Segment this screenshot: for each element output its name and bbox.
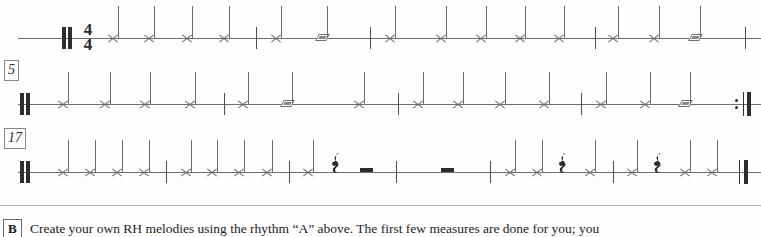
notehead-x xyxy=(218,33,229,44)
barline xyxy=(595,27,596,49)
final-thin-barline xyxy=(739,160,740,184)
notehead-x xyxy=(504,167,515,178)
notehead-x xyxy=(706,167,717,178)
notehead-x xyxy=(206,167,217,178)
notehead-x xyxy=(84,167,95,178)
barline xyxy=(613,161,614,183)
note-stem xyxy=(395,6,396,38)
notehead-x xyxy=(384,33,395,44)
note-stem xyxy=(659,6,660,38)
half-rest xyxy=(360,168,373,172)
note-stem xyxy=(595,140,596,172)
start-barline-stroke xyxy=(26,93,30,115)
note-stem xyxy=(313,140,314,172)
notehead-x xyxy=(648,33,659,44)
note-stem xyxy=(700,6,701,38)
notehead-x xyxy=(595,99,606,110)
note-stem xyxy=(192,6,193,38)
notehead-x xyxy=(494,99,505,110)
notehead-x xyxy=(138,167,149,178)
start-barline-stroke xyxy=(20,161,24,183)
staff-line xyxy=(18,172,761,173)
note-stem xyxy=(122,140,123,172)
notehead-x xyxy=(181,33,192,44)
barline xyxy=(398,93,399,115)
note-stem xyxy=(606,72,607,104)
note-stem xyxy=(229,6,230,38)
notehead-x xyxy=(553,33,564,44)
repeat-thin-barline xyxy=(743,92,744,116)
notehead-x xyxy=(514,33,525,44)
note-stem xyxy=(690,140,691,172)
rehearsal-mark-17: 17 xyxy=(4,128,26,149)
note-stem xyxy=(364,72,365,104)
note-stem xyxy=(423,72,424,104)
quarter-rest xyxy=(558,152,567,174)
note-stem xyxy=(505,72,506,104)
notehead-x xyxy=(353,99,364,110)
notehead-x xyxy=(270,33,281,44)
barline xyxy=(581,93,582,115)
notehead-x xyxy=(475,33,486,44)
barline xyxy=(166,161,167,183)
note-stem xyxy=(650,72,651,104)
note-stem xyxy=(618,6,619,38)
start-barline-stroke xyxy=(26,161,30,183)
notehead-x xyxy=(99,99,110,110)
note-stem xyxy=(564,6,565,38)
notehead-x xyxy=(111,167,122,178)
repeat-thick-barline xyxy=(747,92,751,116)
notehead-x xyxy=(233,167,244,178)
note-stem xyxy=(154,6,155,38)
half-rest xyxy=(441,168,454,172)
repeat-dot-upper xyxy=(735,99,738,102)
notehead-x xyxy=(143,33,154,44)
notehead-x xyxy=(452,99,463,110)
notehead-x xyxy=(107,33,118,44)
notehead-x xyxy=(435,33,446,44)
note-stem xyxy=(446,6,447,38)
start-barline-stroke xyxy=(62,27,66,49)
note-stem xyxy=(272,140,273,172)
notehead-x xyxy=(584,167,595,178)
start-barline-stroke xyxy=(68,27,72,49)
note-stem xyxy=(525,6,526,38)
barline xyxy=(745,27,746,49)
notehead-x xyxy=(639,99,650,110)
quarter-rest xyxy=(653,152,662,174)
barline xyxy=(224,93,225,115)
notehead-x xyxy=(57,167,68,178)
note-stem xyxy=(68,140,69,172)
notehead-x xyxy=(57,99,68,110)
barline xyxy=(256,27,257,49)
note-stem xyxy=(542,140,543,172)
note-stem xyxy=(549,72,550,104)
note-stem xyxy=(690,72,691,104)
barline xyxy=(490,161,491,183)
note-stem xyxy=(118,6,119,38)
start-barline-stroke xyxy=(20,93,24,115)
barline xyxy=(396,161,397,183)
notehead-x xyxy=(626,167,637,178)
quarter-rest xyxy=(331,152,340,174)
notehead-x xyxy=(531,167,542,178)
notehead-x xyxy=(412,99,423,110)
section-divider xyxy=(0,205,761,206)
exercise-marker-b: B xyxy=(3,219,22,237)
note-stem xyxy=(248,72,249,104)
note-stem xyxy=(191,140,192,172)
notehead-x xyxy=(237,99,248,110)
note-stem xyxy=(95,140,96,172)
note-stem xyxy=(244,140,245,172)
notehead-x xyxy=(261,167,272,178)
note-stem xyxy=(195,72,196,104)
note-stem xyxy=(463,72,464,104)
note-stem xyxy=(149,140,150,172)
music-notation-page: 44517BCreate your own RH melodies using … xyxy=(0,0,761,237)
notehead-x xyxy=(184,99,195,110)
final-thick-barline xyxy=(744,160,748,184)
note-stem xyxy=(486,6,487,38)
note-stem xyxy=(292,72,293,104)
notehead-x xyxy=(139,99,150,110)
time-signature-denominator: 4 xyxy=(80,37,96,52)
